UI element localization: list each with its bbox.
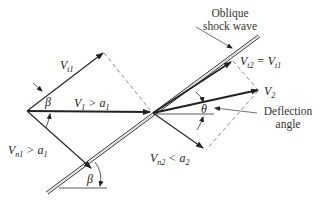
vt1-dashed-line — [104, 53, 151, 111]
shock-label-line1: Oblique — [185, 7, 275, 20]
vn2-vector — [153, 113, 203, 148]
v1-rel: > a — [85, 96, 105, 110]
v1-rel-sub: 1 — [105, 103, 109, 112]
vt2-eq: = V — [254, 54, 275, 68]
vn2-label: Vn2 < a2 — [150, 152, 189, 167]
vn1-rel: > a — [23, 143, 43, 157]
deflection-angle-label: Deflection angle — [254, 105, 320, 130]
vt1-label: Vt1 — [60, 59, 74, 74]
vn2-rel-sub: 2 — [185, 158, 189, 167]
beta-pointer-top — [33, 83, 42, 91]
shock-label-line2: shock wave — [185, 20, 275, 33]
beta-pointer-lower — [46, 114, 50, 128]
beta-label-top: β — [45, 96, 51, 108]
theta-arc-bottom — [197, 117, 203, 130]
theta-arc-top — [196, 92, 203, 102]
vn1-vector — [27, 111, 91, 168]
deflection-line2: angle — [254, 118, 320, 131]
v2-label: V2 — [264, 85, 275, 100]
v2-sub: 2 — [271, 91, 275, 100]
beta-arc-bottom — [95, 162, 101, 186]
shock-wave-label: Oblique shock wave — [185, 7, 275, 32]
vn1-label: Vn1 > a1 — [8, 144, 47, 159]
vn1-rel-sub: 1 — [43, 150, 47, 159]
v1-label: V1 > a1 — [74, 97, 109, 112]
vt1-sub: t1 — [67, 65, 73, 74]
theta-label: θ — [201, 103, 207, 115]
vt2-label: Vt2 = Vt1 — [240, 55, 281, 70]
vn2-rel: < a — [165, 151, 185, 165]
deflection-label-pointer — [215, 108, 257, 113]
deflection-line1: Deflection — [254, 105, 320, 118]
vt2-eq-sub: t1 — [275, 61, 281, 70]
beta-label-bottom: β — [87, 173, 93, 185]
shock-wave-line — [46, 35, 260, 194]
